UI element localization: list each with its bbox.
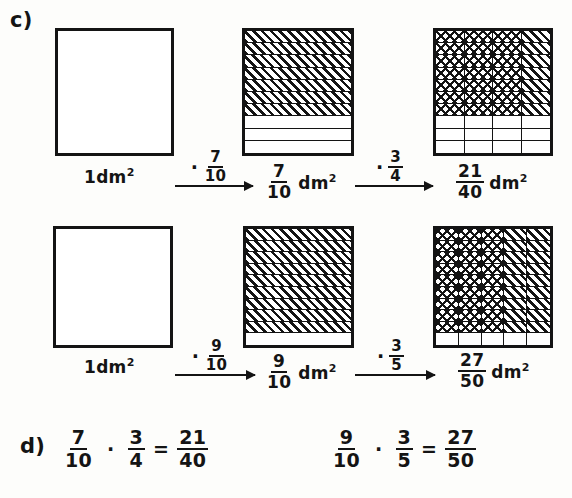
row-2-arrow-2-fraction: 3 5 <box>389 339 404 373</box>
row-2-end-square-cell <box>459 241 482 253</box>
row-2-end-square-cell <box>436 322 459 334</box>
row-2-arrow-1-fraction: 9 10 <box>204 339 229 373</box>
row-1-end-square-cell <box>522 104 551 116</box>
row-1-middle-square <box>242 28 354 156</box>
row-2-arrow-1: · 9 10 <box>175 339 255 376</box>
row-2-end-square-cell <box>527 241 550 253</box>
row-2-end-square-cell <box>527 322 550 334</box>
row-1-arrow-1-line <box>175 185 253 187</box>
row-2-end-square-cell <box>482 299 505 311</box>
row-2-middle-label-fraction: 9 10 <box>265 353 293 391</box>
row-1-start-label: 1dm2 <box>84 166 135 187</box>
row-2-arrow-1-line <box>175 374 255 376</box>
row-1-end-square-cell <box>465 31 494 43</box>
equation-2-right-fraction: 3 5 <box>396 428 414 470</box>
row-1-middle-square-cell <box>245 68 351 80</box>
row-2-end-square-cell <box>436 275 459 287</box>
row-2-arrow-2-label: · 3 5 <box>377 339 405 373</box>
row-1-end-square-cell <box>522 43 551 55</box>
row-2-middle-label-unit: dm2 <box>298 362 336 383</box>
equation-2-equals-sign: = <box>421 438 437 460</box>
row-2-end-square-cell <box>459 299 482 311</box>
row-2-end-label: 27 50 dm2 <box>457 352 530 390</box>
row-1-middle-label-fraction: 7 10 <box>265 163 293 201</box>
row-1-end-square-cell <box>436 116 465 128</box>
row-1-start-label-text: 1dm2 <box>84 166 135 187</box>
row-2-end-square-cell <box>459 310 482 322</box>
row-2-arrow-1-label: · 9 10 <box>192 339 231 373</box>
row-2-middle-square-cell <box>246 333 351 345</box>
row-2-middle-square-cell <box>246 264 351 276</box>
row-1-end-square-cell <box>522 116 551 128</box>
row-2-start-label: 1dm2 <box>84 356 135 377</box>
row-1-end-square-cell <box>522 141 551 153</box>
row-1-arrow-1-operator: · <box>191 156 198 178</box>
row-2-middle-square-cell <box>246 241 351 253</box>
row-2-middle-square-cell <box>246 310 351 322</box>
row-1-middle-square-cell <box>245 104 351 116</box>
row-1-arrow-2-label: · 3 4 <box>376 150 404 184</box>
row-1-end-square-cell <box>493 80 522 92</box>
row-2-arrow-1-operator: · <box>192 345 199 367</box>
row-1-middle-square-cell <box>245 31 351 43</box>
row-1-end-square-cell <box>436 55 465 67</box>
row-2-end-square-cell <box>482 322 505 334</box>
equation-2-left-fraction: 9 10 <box>331 428 362 470</box>
row-2-end-square-cell <box>436 241 459 253</box>
row-2-arrow-2: · 3 5 <box>355 339 435 376</box>
row-1-end-square <box>433 28 553 156</box>
equation-1-left-fraction: 7 10 <box>63 428 94 470</box>
equation-1-equals-sign: = <box>153 438 169 460</box>
row-1-end-label-unit: dm2 <box>489 172 527 193</box>
row-1-arrow-2-line <box>355 185 433 187</box>
row-1-middle-square-cell <box>245 141 351 153</box>
row-1-end-square-cell <box>493 31 522 43</box>
row-2-end-label-fraction: 27 50 <box>458 352 486 390</box>
row-1-end-square-cell <box>465 116 494 128</box>
row-1-middle-label: 7 10 dm2 <box>264 163 337 201</box>
row-2-end-square-cell <box>482 252 505 264</box>
row-1-end-square-cell <box>493 129 522 141</box>
row-1-end-square-cell <box>493 68 522 80</box>
row-1-arrow-1-fraction: 7 10 <box>203 150 228 184</box>
row-1-arrow-2-fraction: 3 4 <box>388 150 403 184</box>
row-1-middle-square-cell <box>245 55 351 67</box>
equation-1-operator: · <box>107 438 115 460</box>
row-1-middle-square-cell <box>245 92 351 104</box>
row-1-end-square-cell <box>522 92 551 104</box>
row-1-middle-square-cell <box>245 116 351 128</box>
row-2-start-square-cell <box>56 229 170 345</box>
row-2-end-square-cell <box>504 299 527 311</box>
row-2-start-label-text: 1dm2 <box>84 356 135 377</box>
row-1-end-square-cell <box>493 116 522 128</box>
row-1-end-square-cell <box>465 68 494 80</box>
row-1-end-square-cell <box>436 92 465 104</box>
row-2-end-square-cell <box>504 264 527 276</box>
row-2-end-square-cell <box>436 310 459 322</box>
row-1-end-square-cell <box>465 80 494 92</box>
row-1-end-square-cell <box>436 43 465 55</box>
row-2-end-square-cell <box>504 310 527 322</box>
row-1-end-square-cell <box>493 92 522 104</box>
row-1-middle-square-cell <box>245 80 351 92</box>
row-2-end-square-cell <box>482 333 505 345</box>
row-1-end-square-cell <box>465 43 494 55</box>
row-2-end-square-cell <box>482 310 505 322</box>
row-2-end-square-cell <box>527 310 550 322</box>
row-2-arrow-2-operator: · <box>377 345 384 367</box>
row-1-end-square-cell <box>465 129 494 141</box>
row-2-end-square-cell <box>436 229 459 241</box>
row-2-end-square-cell <box>436 264 459 276</box>
row-2-end-square-cell <box>459 287 482 299</box>
row-1-middle-square-cell <box>245 43 351 55</box>
row-1-end-square-cell <box>522 68 551 80</box>
row-1-end-square-cell <box>436 129 465 141</box>
row-2-end-square-cell <box>436 252 459 264</box>
row-2-end-square-cell <box>459 275 482 287</box>
row-2-arrow-2-line <box>355 374 435 376</box>
row-1-end-square-cell <box>436 80 465 92</box>
row-1-middle-label-unit: dm2 <box>298 172 336 193</box>
row-1-arrow-2: · 3 4 <box>355 150 433 187</box>
equation-1-result-fraction: 21 40 <box>177 428 208 470</box>
row-2-end-square-cell <box>527 299 550 311</box>
